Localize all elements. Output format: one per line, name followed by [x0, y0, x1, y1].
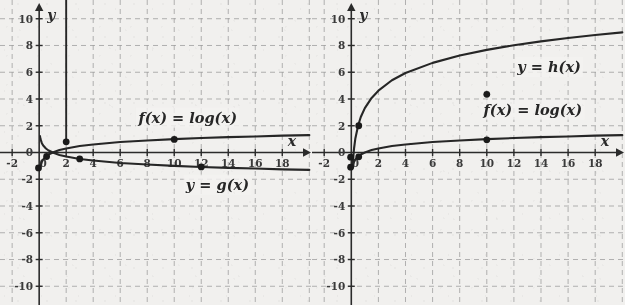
- data-point: [63, 138, 70, 145]
- x-tick-label: 8: [456, 157, 463, 169]
- x-tick-label: 16: [561, 157, 576, 169]
- y-tick-label: -2: [334, 173, 346, 185]
- x-tick-label: 10: [479, 157, 494, 169]
- y-tick-label: -2: [21, 173, 33, 185]
- data-point: [35, 164, 42, 171]
- data-point: [76, 156, 83, 163]
- y-tick-label: 8: [26, 39, 33, 51]
- y-tick-label: 6: [26, 66, 33, 78]
- y-axis-name: y: [358, 7, 368, 23]
- data-point: [483, 91, 490, 98]
- plot-panel-left: -224681012141618108642-2-4-6-8-1000xyf(x…: [0, 0, 312, 305]
- data-point: [43, 153, 50, 160]
- x-tick-label: 2: [375, 157, 382, 169]
- y-tick-label: 4: [26, 93, 33, 105]
- data-point: [483, 136, 490, 143]
- x-tick-label: -2: [318, 157, 330, 169]
- y-tick-label: -8: [334, 253, 346, 265]
- y-tick-label: -10: [326, 280, 345, 292]
- y-tick-label: 4: [338, 93, 345, 105]
- f-label: f(x) = log(x): [483, 101, 583, 118]
- x-tick-label: 12: [507, 157, 522, 169]
- data-point: [347, 164, 354, 171]
- data-point: [355, 153, 362, 160]
- y-tick-label: 8: [338, 39, 345, 51]
- y-tick-label: -6: [21, 227, 33, 239]
- f-label: f(x) = log(x): [137, 109, 237, 126]
- data-point: [171, 136, 178, 143]
- data-point: [355, 122, 362, 129]
- plot-svg-left: -224681012141618108642-2-4-6-8-1000xyf(x…: [0, 0, 312, 305]
- x-tick-label: 18: [588, 157, 603, 169]
- plot-svg-right: -224681012141618108642-2-4-6-8-1000xyy =…: [312, 0, 625, 305]
- y-tick-label: -10: [14, 280, 33, 292]
- x-tick-label: 14: [534, 157, 549, 169]
- y-origin-label: 0: [26, 146, 33, 158]
- y-tick-label: 10: [19, 13, 34, 25]
- x-tick-label: 2: [63, 157, 70, 169]
- x-tick-label: 16: [248, 157, 263, 169]
- x-tick-label: 6: [429, 157, 436, 169]
- y-origin-label: 0: [338, 146, 345, 158]
- plot-panel-right: -224681012141618108642-2-4-6-8-1000xyy =…: [312, 0, 625, 305]
- figure-root: -224681012141618108642-2-4-6-8-1000xyf(x…: [0, 0, 625, 305]
- y-tick-label: -4: [21, 200, 33, 212]
- y-tick-label: -8: [21, 253, 33, 265]
- y-axis-name: y: [46, 7, 56, 23]
- y-tick-label: 2: [26, 120, 33, 132]
- x-tick-label: 4: [90, 157, 97, 169]
- g-label: y = g(x): [185, 176, 249, 193]
- data-point: [198, 164, 205, 171]
- y-tick-label: 6: [338, 66, 345, 78]
- h-label: y = h(x): [516, 58, 581, 75]
- y-tick-label: -4: [334, 200, 346, 212]
- y-tick-label: 10: [331, 13, 346, 25]
- x-tick-label: 8: [144, 157, 151, 169]
- y-tick-label: 2: [338, 120, 345, 132]
- y-tick-label: -6: [334, 227, 346, 239]
- data-point: [347, 154, 354, 161]
- x-tick-label: 4: [402, 157, 409, 169]
- x-tick-label: 18: [275, 157, 290, 169]
- x-tick-label: -2: [6, 157, 18, 169]
